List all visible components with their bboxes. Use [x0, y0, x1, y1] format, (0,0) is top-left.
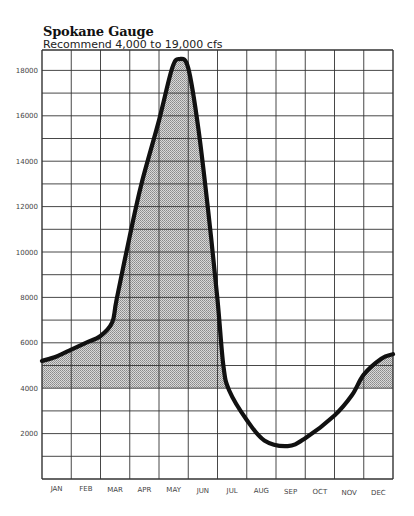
- x-tick-label: MAY: [166, 486, 181, 494]
- y-tick-label: 12000: [16, 203, 38, 211]
- x-tick-label: JAN: [50, 485, 63, 493]
- y-tick-label: 18000: [16, 67, 38, 75]
- y-tick-label: 10000: [16, 249, 38, 257]
- x-tick-label: JUN: [196, 487, 209, 495]
- x-tick-label: SEP: [284, 488, 297, 496]
- y-tick-label: 4000: [20, 385, 38, 393]
- y-tick-label: 16000: [16, 112, 38, 120]
- x-tick-label: DEC: [371, 489, 386, 497]
- x-tick-label: APR: [137, 486, 151, 494]
- y-tick-label: 6000: [20, 339, 38, 347]
- y-tick-label: 14000: [16, 158, 38, 166]
- grid: [42, 50, 393, 479]
- y-tick-label: 2000: [20, 430, 38, 438]
- y-tick-label: 8000: [20, 294, 38, 302]
- flow-chart: 2000400060008000100001200014000160001800…: [0, 0, 414, 516]
- x-tick-label: MAR: [107, 486, 123, 494]
- x-tick-label: FEB: [79, 485, 92, 493]
- x-tick-label: NOV: [341, 489, 357, 497]
- x-axis-labels: JANFEBMARAPRMAYJUNJULAUGSEPOCTNOVDEC: [50, 485, 386, 497]
- x-tick-label: OCT: [313, 488, 328, 496]
- y-axis-labels: 2000400060008000100001200014000160001800…: [16, 67, 38, 438]
- x-tick-label: JUL: [226, 487, 238, 495]
- x-tick-label: AUG: [254, 487, 269, 495]
